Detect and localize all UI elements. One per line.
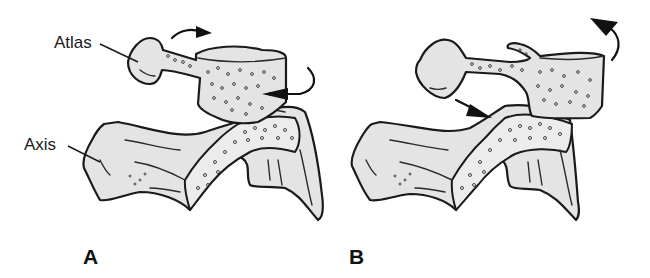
atlas-vertebra-a (128, 38, 286, 123)
panel-letter-b: B (349, 246, 364, 267)
panel-b (352, 18, 619, 220)
pressure-arrow-b (456, 100, 492, 118)
rotation-arrow-top-a (172, 26, 212, 38)
axis-vertebra-b (352, 105, 579, 220)
axis-vertebra-a (83, 107, 322, 220)
arrowhead-icon (466, 104, 492, 118)
axis-label: Axis (24, 136, 56, 153)
panel-a (68, 26, 323, 220)
panel-letter-a: A (83, 246, 98, 267)
arrowhead-icon (196, 26, 212, 38)
atlas-axis-diagram: Atlas Axis A B (0, 0, 650, 278)
atlas-label: Atlas (54, 34, 92, 51)
